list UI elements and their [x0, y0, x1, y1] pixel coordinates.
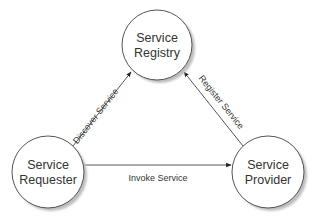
node-service-requester: Service Requester [12, 136, 87, 211]
registry-label-line1: Service [136, 31, 178, 45]
registry-label-line2: Registry [134, 46, 181, 60]
edge-discover-service: Discover Service [71, 72, 131, 146]
requester-label-line1: Service [27, 158, 69, 172]
registry-circle [122, 10, 192, 80]
edge-register-service: Register Service [184, 72, 246, 146]
register-label: Register Service [197, 73, 246, 131]
invoke-label: Invoke Service [128, 173, 187, 183]
soa-diagram: Discover Service Register Service Invoke… [0, 0, 315, 224]
node-service-provider: Service Provider [232, 136, 307, 211]
provider-label-line1: Service [247, 158, 289, 172]
provider-label-line2: Provider [245, 173, 292, 187]
discover-label: Discover Service [71, 86, 120, 145]
provider-circle [232, 136, 304, 208]
requester-circle [12, 136, 84, 208]
node-service-registry: Service Registry [122, 10, 195, 83]
edge-invoke-service: Invoke Service [84, 165, 231, 183]
requester-label-line2: Requester [19, 173, 77, 187]
